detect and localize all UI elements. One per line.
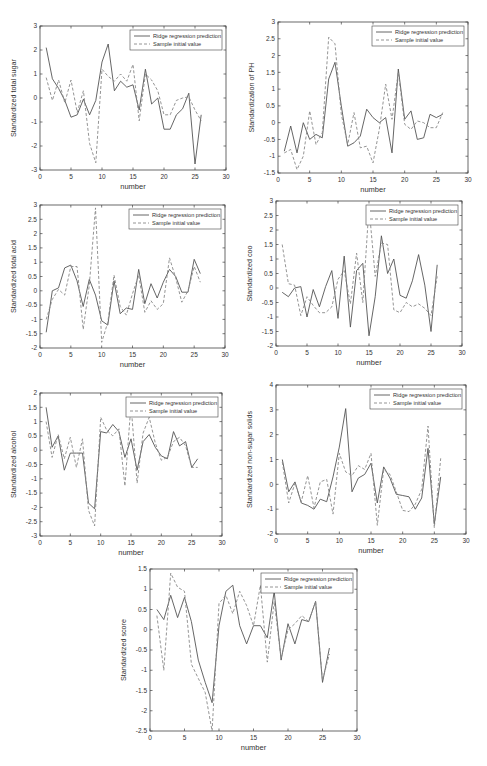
legend-label-prediction: Ridge regression prediction	[389, 208, 457, 214]
x-tick-label: 5	[308, 176, 312, 183]
x-tick-label: 0	[274, 349, 278, 356]
y-tick-label: -1	[31, 475, 37, 482]
x-tick-label: 30	[218, 539, 226, 546]
legend: Ridge regression predictionSample initia…	[370, 389, 462, 409]
x-tick-label: 30	[221, 351, 229, 358]
y-tick-label: -2.5	[136, 727, 148, 734]
y-axis-label: Standardized score	[119, 619, 128, 681]
y-tick-label: 3	[33, 201, 37, 208]
x-tick-label: 10	[334, 349, 342, 356]
y-tick-label: 0.5	[266, 102, 275, 109]
x-axis-label: number	[241, 743, 267, 752]
legend: Ridge regression predictionSample initia…	[129, 209, 221, 229]
y-tick-label: -1.5	[264, 169, 276, 176]
y-tick-label: -1	[141, 666, 147, 673]
y-tick-label: -1	[267, 313, 273, 320]
x-axis-label: number	[356, 358, 382, 367]
y-tick-label: 2	[269, 431, 273, 438]
y-tick-label: 1.5	[28, 404, 37, 411]
x-axis-label: number	[358, 546, 384, 555]
x-axis-label: number	[120, 182, 146, 191]
y-tick-label: 0	[269, 481, 273, 488]
y-tick-label: -2	[267, 342, 273, 349]
x-tick-label: 5	[306, 537, 310, 544]
x-tick-label: 0	[276, 176, 280, 183]
y-tick-label: -1	[31, 118, 37, 125]
y-tick-label: 1	[143, 585, 147, 592]
y-tick-label: 1.5	[138, 565, 147, 572]
legend-label-prediction: Ridge regression prediction	[393, 392, 461, 398]
y-tick-label: -3	[31, 166, 37, 173]
y-tick-label: 1	[33, 418, 37, 425]
x-tick-label: 15	[250, 734, 258, 741]
y-tick-label: -1.5	[262, 328, 274, 335]
y-tick-label: -1.5	[136, 687, 148, 694]
x-axis-label: number	[118, 548, 144, 557]
x-tick-label: 15	[127, 539, 135, 546]
y-tick-label: 1	[271, 85, 275, 92]
x-tick-label: 15	[129, 351, 137, 358]
y-tick-label: 0	[33, 287, 37, 294]
legend-label-prediction: Ridge regression prediction	[149, 400, 217, 406]
y-tick-label: -2.5	[26, 518, 38, 525]
x-tick-label: 15	[367, 537, 375, 544]
y-axis-label: Standardized total acid	[9, 240, 18, 313]
y-tick-label: 2	[33, 389, 37, 396]
y-tick-label: 0.5	[28, 273, 37, 280]
x-tick-label: 20	[401, 176, 409, 183]
y-axis-label: Standardized non-sugar solids	[245, 411, 254, 508]
y-axis-label: Standardization of PH	[247, 63, 256, 133]
y-tick-label: -0.5	[26, 461, 38, 468]
x-tick-label: 5	[69, 351, 73, 358]
x-tick-label: 10	[98, 351, 106, 358]
x-tick-label: 0	[38, 351, 42, 358]
y-tick-label: -0.5	[262, 299, 274, 306]
y-tick-label: 3	[33, 22, 37, 29]
legend: Ridge regression predictionSample initia…	[261, 573, 353, 593]
line-chart-7: 051015202530number-2.5-2-1.5-1-0.500.511…	[112, 561, 367, 761]
legend-label-sample: Sample initial value	[395, 37, 443, 43]
y-tick-label: 2	[269, 226, 273, 233]
y-tick-label: -2	[31, 344, 37, 351]
x-tick-label: 30	[353, 734, 361, 741]
legend: Ridge regression predictionSample initia…	[130, 30, 222, 50]
x-tick-label: 25	[188, 539, 196, 546]
legend-label-sample: Sample initial value	[389, 216, 437, 222]
legend-label-sample: Sample initial value	[284, 584, 332, 590]
y-tick-label: -2	[267, 530, 273, 537]
line-chart-3: 051015202530number-2-1.5-1-0.500.511.522…	[2, 197, 235, 378]
x-tick-label: 25	[433, 176, 441, 183]
x-tick-label: 15	[129, 173, 137, 180]
legend-label-sample: Sample initial value	[393, 400, 441, 406]
x-tick-label: 10	[338, 176, 346, 183]
x-tick-label: 0	[38, 539, 42, 546]
x-tick-label: 0	[148, 734, 152, 741]
y-tick-label: 1.5	[266, 69, 275, 76]
y-tick-label: 4	[269, 381, 273, 388]
y-tick-label: 1	[269, 456, 273, 463]
y-tick-label: 3	[269, 406, 273, 413]
line-chart-2: 051015202530number-1.5-1-0.500.511.522.5…	[240, 14, 478, 203]
y-tick-label: 1.5	[264, 241, 273, 248]
y-tick-label: 1	[33, 258, 37, 265]
legend-label-prediction: Ridge regression prediction	[395, 29, 463, 35]
x-tick-label: 25	[191, 351, 199, 358]
x-tick-label: 20	[284, 734, 292, 741]
y-tick-label: 0	[271, 119, 275, 126]
legend: Ridge regression predictionSample initia…	[126, 397, 218, 417]
x-tick-label: 5	[69, 539, 73, 546]
y-tick-label: 0	[33, 94, 37, 101]
x-tick-label: 10	[336, 537, 344, 544]
y-tick-label: -2	[141, 707, 147, 714]
y-tick-label: 2.5	[28, 216, 37, 223]
y-tick-label: 0.5	[264, 270, 273, 277]
y-tick-label: -2	[31, 142, 37, 149]
legend-label-sample: Sample initial value	[153, 41, 201, 47]
x-tick-label: 30	[458, 349, 466, 356]
y-tick-label: 2	[33, 46, 37, 53]
y-tick-label: 1	[269, 255, 273, 262]
x-axis-label: number	[120, 360, 146, 369]
x-tick-label: 30	[464, 176, 472, 183]
legend-label-prediction: Ridge regression prediction	[152, 212, 220, 218]
y-axis-label: Standardized alcohol	[9, 431, 18, 499]
